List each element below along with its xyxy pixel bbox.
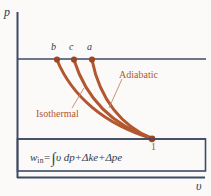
equation-integrand: υ dp — [56, 151, 75, 163]
equation-term-pe: Δpe — [105, 151, 122, 163]
equation-term-ke: Δke — [82, 151, 98, 163]
state-point-a — [89, 56, 95, 62]
state-label-c: c — [69, 42, 73, 52]
work-equation: win=∫υ dp+Δke+Δpe — [30, 151, 122, 166]
equation-lhs-subscript: in — [37, 156, 43, 165]
adiabatic-label: Adiabatic — [119, 70, 158, 80]
v-axis-label: υ — [196, 180, 202, 192]
state-label-b: b — [51, 42, 56, 52]
diagram-canvas — [0, 0, 211, 196]
equation-equals: = — [44, 151, 51, 163]
pv-diagram-figure: p υ b c a 1 Adiabatic Isothermal win=∫υ … — [0, 0, 211, 196]
state-point-b — [54, 56, 60, 62]
state-point-c — [71, 56, 77, 62]
state-label-a: a — [87, 42, 92, 52]
equation-plus-1: + — [75, 151, 82, 163]
p-axis-label: p — [4, 6, 10, 18]
adiabatic-leader-line — [109, 79, 122, 108]
state-label-1: 1 — [151, 142, 156, 152]
isothermal-label: Isothermal — [36, 109, 79, 119]
